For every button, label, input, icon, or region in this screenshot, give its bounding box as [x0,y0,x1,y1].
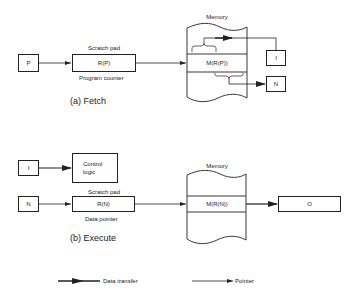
control-logic-line1: Control [83,161,102,167]
fetch-p-box: P [18,54,39,72]
fetch-i-label: I [275,55,277,61]
legend-data-transfer-label: Data transfer [103,278,138,284]
fetch-scratch-pad-label: Scratch pad [88,45,120,51]
execute-n-box: N [18,196,39,212]
execute-register-sublabel: Data pointer [85,216,118,222]
execute-o-label: O [307,201,312,207]
execute-register-box: R(N) [72,196,135,212]
execute-n-label: N [26,201,30,207]
fetch-n-box: N [266,76,286,92]
execute-memory-cell: M(R(N)) [206,201,228,207]
fetch-memory-label: Memory [206,14,228,20]
fetch-register-label: R(P) [98,60,110,66]
execute-register-label: R(N) [97,201,110,207]
fetch-register-sublabel: Program counter [79,75,124,81]
fetch-p-label: P [26,60,30,66]
execute-caption: (b) Execute [70,234,116,243]
execute-memory-block [187,170,246,243]
legend-pointer-label: Pointer [235,278,254,284]
execute-i-box: I [18,160,39,176]
execute-o-box: O [278,196,341,212]
fetch-i-box: I [266,50,286,66]
fetch-memory-cell: M(R(P)) [206,60,227,66]
fetch-caption: (a) Fetch [70,97,106,106]
control-logic-box: Control logic [72,153,118,183]
control-logic-line2: logic [83,169,102,175]
fetch-register-box: R(P) [72,54,136,72]
execute-memory-label: Memory [206,163,228,169]
execute-i-label: I [28,165,30,171]
execute-scratch-pad-label: Scratch pad [88,189,120,195]
diagram-lines [0,0,355,297]
fetch-n-label: N [274,81,278,87]
